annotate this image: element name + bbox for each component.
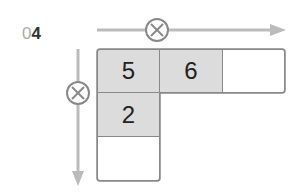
- vertical-multiply-icon: [67, 82, 89, 104]
- vertical-arrow-head: [72, 171, 84, 186]
- horizontal-arrow-head: [270, 24, 286, 36]
- cell-r0-c0: 5: [97, 49, 160, 93]
- cell-r0-c1: 6: [160, 49, 223, 93]
- cell-r2-c0[interactable]: [97, 137, 160, 181]
- horizontal-multiply-icon: [146, 19, 168, 41]
- cell-r0-c2[interactable]: [223, 49, 285, 93]
- cell-r1-c0: 2: [97, 93, 160, 137]
